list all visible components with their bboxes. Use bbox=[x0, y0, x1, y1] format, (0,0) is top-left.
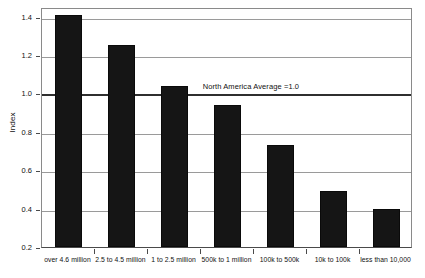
bar-chart: Index 0.20.40.60.81.01.21.4 North Americ… bbox=[0, 0, 425, 278]
reference-line bbox=[42, 94, 411, 96]
y-tick-mark bbox=[36, 248, 40, 249]
y-tick-mark bbox=[36, 56, 40, 57]
x-axis-label: 2.5 to 4.5 million bbox=[95, 256, 145, 263]
y-tick-label: 1.2 bbox=[4, 52, 32, 60]
x-tick-mark bbox=[306, 249, 307, 254]
y-tick-label: 1.0 bbox=[4, 90, 32, 98]
x-axis-label: 500k to 1 million bbox=[202, 256, 252, 263]
y-tick-mark bbox=[36, 18, 40, 19]
y-tick-mark bbox=[36, 133, 40, 134]
y-tick-mark bbox=[36, 94, 40, 95]
bar bbox=[320, 191, 348, 247]
x-tick-mark bbox=[147, 249, 148, 254]
reference-line-annotation: North America Average =1.0 bbox=[203, 82, 299, 91]
x-axis-label: 1 to 2.5 million bbox=[151, 256, 196, 263]
x-axis-label: 10k to 100k bbox=[315, 256, 351, 263]
bar bbox=[214, 105, 242, 247]
y-tick-mark bbox=[36, 210, 40, 211]
x-axis-label: less than 10,000 bbox=[360, 256, 411, 263]
x-tick-mark bbox=[359, 249, 360, 254]
gridline bbox=[42, 19, 411, 20]
x-axis-label: over 4.6 million bbox=[44, 256, 91, 263]
y-axis-tick-labels: 0.20.40.60.81.01.21.4 bbox=[2, 0, 32, 278]
y-tick-label: 1.4 bbox=[4, 14, 32, 22]
y-tick-label: 0.6 bbox=[4, 167, 32, 175]
x-axis-label: 100k to 500k bbox=[260, 256, 300, 263]
x-axis-category-labels: over 4.6 million2.5 to 4.5 million1 to 2… bbox=[41, 256, 412, 274]
y-tick-label: 0.2 bbox=[4, 244, 32, 252]
bar bbox=[267, 145, 295, 247]
plot-area bbox=[41, 8, 412, 248]
bar bbox=[161, 86, 189, 247]
y-tick-label: 0.4 bbox=[4, 206, 32, 214]
x-tick-mark bbox=[253, 249, 254, 254]
x-tick-mark bbox=[94, 249, 95, 254]
bar bbox=[108, 45, 136, 247]
y-tick-label: 0.8 bbox=[4, 129, 32, 137]
bar bbox=[373, 209, 401, 247]
y-tick-mark bbox=[36, 171, 40, 172]
gridline bbox=[42, 57, 411, 58]
bar bbox=[55, 15, 83, 247]
x-tick-mark bbox=[200, 249, 201, 254]
